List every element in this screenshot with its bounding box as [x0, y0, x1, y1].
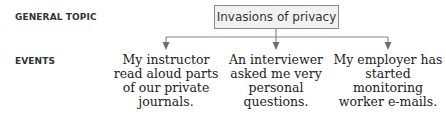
event-item: My employer has started monitoring worke… — [333, 53, 443, 109]
arrow-down-icon — [273, 42, 280, 50]
arrow-down-icon — [163, 42, 170, 50]
event-item: My instructor read aloud parts of our pr… — [111, 53, 221, 109]
arrow-down-icon — [385, 42, 392, 50]
event-item: An interviewer asked me very personal qu… — [221, 53, 331, 109]
